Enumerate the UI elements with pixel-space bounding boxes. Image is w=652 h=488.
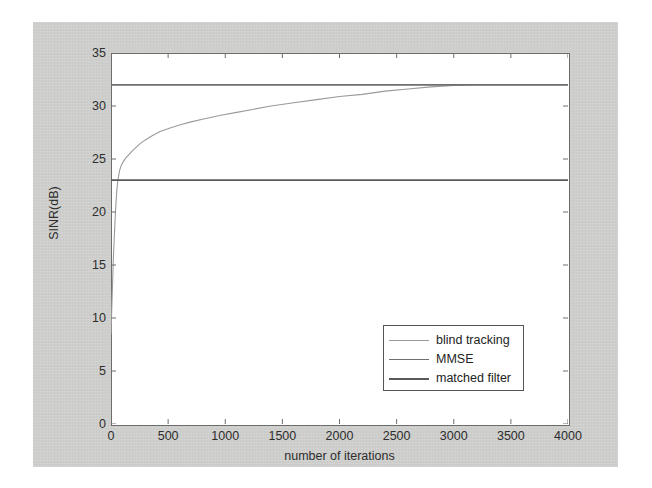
x-tick-label: 2000 bbox=[315, 429, 365, 443]
x-tick-label: 0 bbox=[86, 429, 136, 443]
y-tick-label: 25 bbox=[80, 153, 106, 165]
legend-line-swatch bbox=[389, 340, 429, 341]
legend-item: blind tracking bbox=[384, 331, 523, 350]
x-axis-title: number of iterations bbox=[111, 449, 568, 463]
legend-label: MMSE bbox=[436, 353, 474, 366]
x-tick-label: 1500 bbox=[257, 429, 307, 443]
y-tick-label: 30 bbox=[80, 100, 106, 112]
y-tick-label: 5 bbox=[80, 365, 106, 377]
legend-item: matched filter bbox=[384, 369, 523, 388]
legend-line-swatch bbox=[389, 359, 429, 360]
x-axis-tick-labels: 05001000150020002500300035004000 bbox=[111, 429, 568, 447]
x-tick-label: 4000 bbox=[543, 429, 593, 443]
x-tick-label: 3000 bbox=[429, 429, 479, 443]
x-tick-label: 2500 bbox=[372, 429, 422, 443]
x-tick-label: 500 bbox=[143, 429, 193, 443]
y-tick-label: 15 bbox=[80, 259, 106, 271]
series-line bbox=[111, 85, 568, 334]
legend-label: matched filter bbox=[436, 372, 511, 385]
y-axis-title: SINR(dB) bbox=[47, 153, 61, 273]
figure-page: 05101520253035 SINR(dB) 0500100015002000… bbox=[0, 0, 652, 488]
y-tick-label: 20 bbox=[80, 206, 106, 218]
series-group bbox=[111, 85, 568, 334]
chart-legend: blind trackingMMSEmatched filter bbox=[383, 325, 524, 391]
x-tick-label: 1000 bbox=[200, 429, 250, 443]
legend-label: blind tracking bbox=[436, 334, 510, 347]
y-axis-tick-labels: 05101520253035 bbox=[80, 53, 106, 424]
legend-line-swatch bbox=[389, 378, 429, 380]
legend-item: MMSE bbox=[384, 350, 523, 369]
y-tick-label: 10 bbox=[80, 312, 106, 324]
y-tick-label: 35 bbox=[80, 47, 106, 59]
x-tick-label: 3500 bbox=[486, 429, 536, 443]
